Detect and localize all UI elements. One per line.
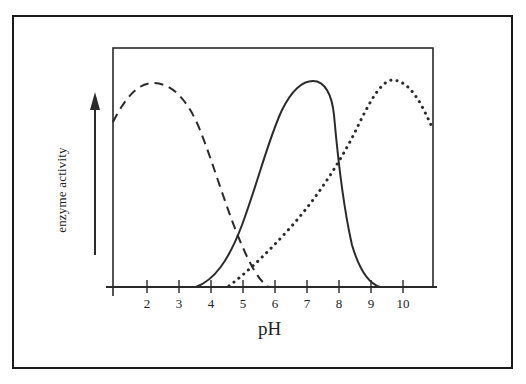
- x-tick-label: 6: [272, 296, 279, 312]
- dotted-curve: [229, 80, 431, 286]
- x-tick-label: 3: [176, 296, 183, 312]
- x-axis-label: pH: [258, 318, 281, 340]
- x-tick-label: 8: [336, 296, 343, 312]
- x-tick-label: 10: [397, 296, 410, 312]
- x-tick-label: 5: [240, 296, 247, 312]
- x-tick-label: 2: [144, 296, 151, 312]
- y-axis-label: enzyme activity: [54, 147, 70, 233]
- solid-curve: [196, 81, 380, 287]
- x-tick-label: 7: [304, 296, 311, 312]
- activity-arrow-icon: [90, 92, 100, 255]
- dashed-curve: [113, 83, 268, 286]
- x-tick-label: 9: [368, 296, 375, 312]
- x-tick-label: 4: [208, 296, 215, 312]
